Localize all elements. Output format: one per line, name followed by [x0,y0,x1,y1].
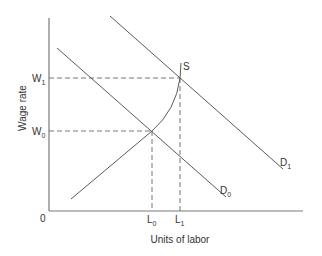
origin-label: 0 [40,213,46,224]
w1-label: W1 [32,73,45,86]
labor-market-diagram: S D0 D1 W1 W0 0 L0 L1 Units of labor Wag… [0,0,322,256]
demand-curve-d0 [57,48,226,197]
x-axis-title: Units of labor [151,234,211,245]
demand-curve-d1 [110,16,283,169]
supply-label: S [183,61,190,72]
l1-label: L1 [175,214,185,227]
w0-label: W0 [32,126,45,139]
l0-label: L0 [147,214,157,227]
y-axis-title: Wage rate [17,85,28,131]
